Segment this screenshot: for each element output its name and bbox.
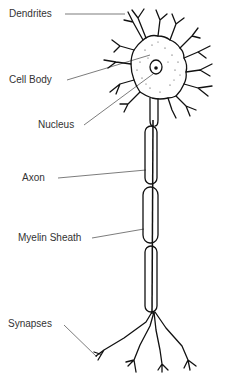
label-axon: Axon	[22, 172, 45, 184]
cell-body	[131, 36, 187, 100]
leader-synapses	[64, 325, 97, 357]
leader-myelin-sheath	[92, 229, 144, 238]
label-dendrites: Dendrites	[9, 8, 52, 20]
axon-hillock	[150, 98, 158, 126]
label-myelin-sheath: Myelin Sheath	[18, 232, 81, 244]
label-synapses: Synapses	[8, 318, 52, 330]
label-nucleus: Nucleus	[38, 119, 74, 131]
axon	[152, 120, 153, 314]
leader-nucleus	[84, 74, 153, 125]
leader-lines	[58, 14, 153, 357]
leader-axon	[58, 170, 146, 178]
axon-terminals	[94, 312, 196, 372]
nucleus	[150, 60, 162, 74]
cell-body-stipple	[136, 42, 180, 93]
myelin-sheath	[143, 126, 158, 312]
label-cell-body: Cell Body	[9, 74, 52, 86]
